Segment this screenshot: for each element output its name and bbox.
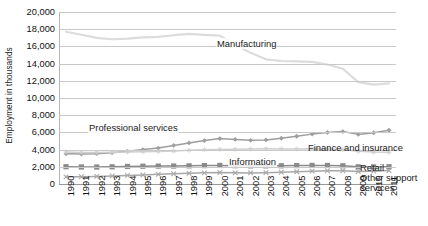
annotation-manufacturing: Manufacturing bbox=[216, 38, 277, 49]
x-axis-tick-2005: 2005 bbox=[297, 176, 307, 197]
series-label-services: services bbox=[360, 182, 394, 193]
y-axis-tick-6000: 6,000 bbox=[32, 127, 55, 137]
x-axis-tick-2006: 2006 bbox=[312, 176, 322, 197]
gridline bbox=[59, 64, 396, 65]
x-axis-tick-1995: 1995 bbox=[143, 176, 153, 197]
x-axis-tick-2008: 2008 bbox=[343, 176, 353, 197]
y-axis-tick-labels: 02,0004,0006,0008,00010,00012,00014,0001… bbox=[16, 12, 58, 184]
gridline bbox=[59, 12, 396, 13]
y-axis-tick-20000: 20,000 bbox=[27, 7, 55, 17]
gridline bbox=[59, 98, 396, 99]
gridline bbox=[59, 115, 396, 116]
annotation-professional-services: Professional services bbox=[88, 122, 179, 133]
y-axis-tick-10000: 10,000 bbox=[27, 93, 55, 103]
x-axis-tick-2004: 2004 bbox=[281, 176, 291, 197]
x-axis-tick-1994: 1994 bbox=[128, 176, 138, 197]
x-axis-tick-1997: 1997 bbox=[174, 176, 184, 197]
series-label-finance-and-insurance: Finance and insurance bbox=[308, 142, 403, 153]
x-axis-tick-2007: 2007 bbox=[327, 176, 337, 197]
x-axis-tick-1996: 1996 bbox=[158, 176, 168, 197]
x-axis-tick-2001: 2001 bbox=[235, 176, 245, 197]
gridline bbox=[59, 29, 396, 30]
y-axis-tick-12000: 12,000 bbox=[27, 76, 55, 86]
x-axis-tick-1998: 1998 bbox=[189, 176, 199, 197]
x-axis-tick-labels: 1990199119921993199419951996199719981999… bbox=[59, 186, 396, 226]
y-axis-title: Employment in thousands bbox=[5, 47, 14, 144]
gridline bbox=[59, 81, 396, 82]
x-axis-tick-2002: 2002 bbox=[251, 176, 261, 197]
y-axis-tick-0: 0 bbox=[50, 179, 55, 189]
annotation-information: Information bbox=[228, 156, 277, 167]
x-axis-tick-2003: 2003 bbox=[266, 176, 276, 197]
x-axis-tick-1991: 1991 bbox=[81, 176, 91, 197]
y-axis-tick-2000: 2,000 bbox=[32, 162, 55, 172]
x-axis-tick-1993: 1993 bbox=[112, 176, 122, 197]
x-axis-tick-2000: 2000 bbox=[220, 176, 230, 197]
x-axis-tick-1990: 1990 bbox=[66, 176, 76, 197]
y-axis-tick-18000: 18,000 bbox=[27, 24, 55, 34]
employment-line-chart: Employment in thousands 02,0004,0006,000… bbox=[0, 0, 428, 226]
x-axis-tick-1999: 1999 bbox=[204, 176, 214, 197]
x-axis-tick-1992: 1992 bbox=[97, 176, 107, 197]
y-axis-tick-8000: 8,000 bbox=[32, 110, 55, 120]
y-axis-tick-16000: 16,000 bbox=[27, 41, 55, 51]
y-axis-tick-14000: 14,000 bbox=[27, 59, 55, 69]
y-axis-tick-4000: 4,000 bbox=[32, 145, 55, 155]
